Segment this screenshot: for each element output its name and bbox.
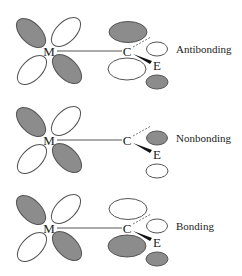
metal-atom-label: M — [43, 221, 55, 236]
panel-label: Nonbonding — [176, 132, 232, 144]
heteroatom-p-lobe-top — [147, 42, 168, 56]
panels-group: MCEAntibondingMCENonbondingMCEBonding — [11, 12, 232, 267]
heteroatom-p-lobe-top — [147, 219, 168, 233]
carbon-p-lobe-bottom — [108, 58, 146, 80]
carbon-p-lobe-bottom — [108, 235, 146, 257]
heteroatom-p-lobe-bottom — [146, 252, 168, 266]
heteroatom-p-lobe-bottom — [146, 164, 168, 178]
heteroatom-p-lobe-top — [147, 131, 168, 145]
wedge-bond — [133, 143, 152, 153]
heteroatom-label: E — [153, 147, 161, 162]
metal-atom-label: M — [43, 133, 55, 148]
carbon-atom-label: C — [123, 44, 132, 59]
panel-antibonding: MCEAntibonding — [11, 12, 232, 90]
metal-atom-label: M — [43, 44, 55, 59]
orbital-diagram: MCEAntibondingMCENonbondingMCEBonding — [0, 0, 242, 276]
carbon-p-lobe-top — [109, 199, 147, 220]
panel-label: Bonding — [176, 220, 214, 232]
heteroatom-label: E — [153, 58, 161, 73]
panel-bonding: MCEBonding — [11, 189, 214, 267]
heteroatom-label: E — [153, 235, 161, 250]
panel-label: Antibonding — [176, 43, 232, 55]
carbon-p-lobe-top — [109, 22, 147, 43]
panel-nonbonding: MCENonbonding — [11, 101, 231, 179]
carbon-atom-label: C — [123, 221, 132, 236]
heteroatom-p-lobe-bottom — [146, 75, 168, 89]
carbon-atom-label: C — [123, 133, 132, 148]
